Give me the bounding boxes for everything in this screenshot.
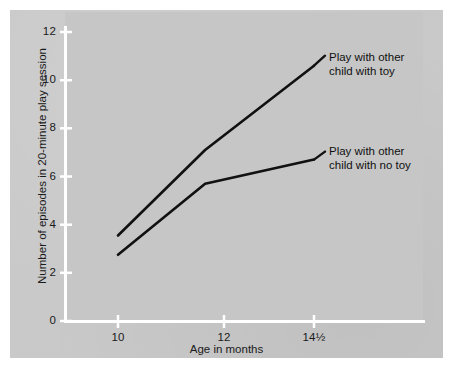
annotation-play-with-toy: Play with other child with toy	[329, 50, 404, 78]
y-axis-title: Number of episodes in 20-minute play ses…	[36, 36, 48, 296]
x-axis-title: Age in months	[0, 343, 453, 355]
annotation-toy-line1: Play with other	[329, 50, 404, 64]
x-tick-label-10: 10	[98, 331, 138, 343]
annotation-no-toy-line1: Play with other	[329, 144, 411, 158]
leader-line-toy	[314, 56, 325, 66]
annotation-toy-line2: child with toy	[329, 64, 404, 78]
annotation-no-toy-line2: child with no toy	[329, 158, 411, 172]
y-tick-label-0: 0	[30, 314, 56, 326]
series-line-toy	[118, 66, 314, 236]
x-tick-label-14half: 14½	[294, 331, 334, 343]
annotation-play-with-no-toy: Play with other child with no toy	[329, 144, 411, 172]
figure-page: 0 2 4 6 8 10 12 10 12 14½ Age in months …	[0, 0, 453, 369]
leader-line-no-toy	[314, 152, 325, 160]
x-tick-label-12: 12	[204, 331, 244, 343]
